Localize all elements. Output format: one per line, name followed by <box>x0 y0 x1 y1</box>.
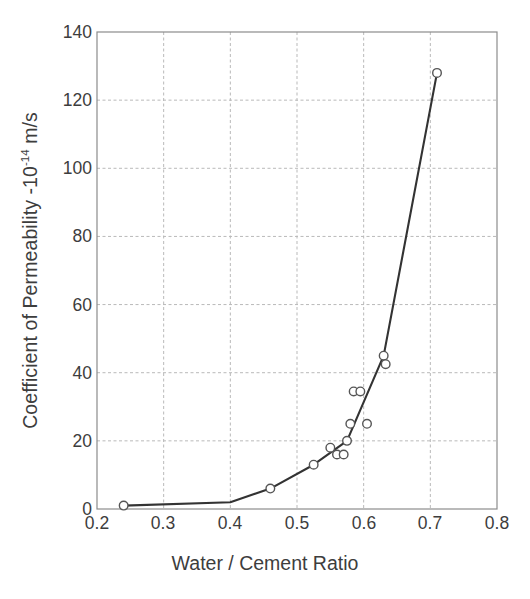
data-points <box>119 69 441 510</box>
plot-area <box>0 0 530 599</box>
data-point <box>381 360 390 369</box>
data-point <box>356 387 365 396</box>
gridlines <box>97 32 497 509</box>
data-point <box>433 69 442 78</box>
data-point <box>343 437 352 446</box>
data-point <box>309 460 318 469</box>
data-point <box>363 420 372 429</box>
data-point <box>339 450 348 459</box>
data-point <box>266 484 275 493</box>
data-point <box>326 443 335 452</box>
data-point <box>379 351 388 360</box>
data-point <box>119 501 128 510</box>
plot-canvas <box>0 0 530 599</box>
data-point <box>346 420 355 429</box>
chart-figure: Coefficient of Permeability -10-14 m/s 1… <box>0 0 530 599</box>
